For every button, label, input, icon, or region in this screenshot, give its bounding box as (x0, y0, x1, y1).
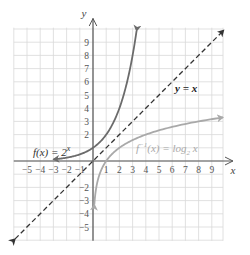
x-tick-label: 1 (104, 165, 109, 175)
y-tick-label: 2 (84, 130, 89, 140)
x-axis-label: x (229, 164, 235, 176)
x-tick-label: 8 (196, 165, 201, 175)
y-axis-label: y (81, 7, 87, 19)
x-tick-label: 2 (117, 165, 122, 175)
x-tick-label: 4 (143, 165, 148, 175)
logarithm-label: f−1(x) = log2 x (136, 141, 198, 157)
y-tick-label: 9 (84, 38, 89, 48)
y-tick-label: −5 (79, 223, 89, 233)
chart: xy −5−4−3−2−112345678998765432−2−3−4−5 f… (0, 0, 250, 255)
x-tick-label: 7 (183, 165, 188, 175)
y-tick-label: −4 (79, 209, 89, 219)
y-tick-label: 5 (84, 91, 89, 101)
x-tick-label: 6 (170, 165, 175, 175)
y-tick-label: 3 (84, 117, 89, 127)
x-tick-label: −4 (35, 165, 45, 175)
x-tick-label: 5 (157, 165, 162, 175)
identity-label: y = x (173, 82, 198, 94)
x-tick-label: −3 (48, 165, 58, 175)
y-tick-label: 6 (84, 77, 89, 87)
y-tick-label: −2 (79, 183, 89, 193)
x-tick-label: 3 (130, 165, 135, 175)
y-tick-label: −3 (79, 196, 89, 206)
x-tick-label: −5 (22, 165, 32, 175)
y-tick-label: 4 (84, 104, 89, 114)
x-tick-label: 9 (209, 165, 214, 175)
x-tick-label: −2 (62, 165, 72, 175)
y-tick-label: 7 (84, 64, 89, 74)
y-tick-label: 8 (84, 51, 89, 61)
exponential-label: f(x) = 2x (33, 144, 71, 159)
